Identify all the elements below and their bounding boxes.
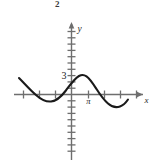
x-axis-label: x	[144, 95, 149, 105]
y-axis-label: y	[76, 24, 82, 34]
x-tick-label-pi: π	[86, 96, 91, 106]
math-figure: 2	[0, 0, 155, 166]
trig-curve	[19, 75, 128, 107]
y-value-label-3: 3	[62, 70, 67, 81]
y-axis-arrowhead	[69, 22, 75, 29]
x-axis-arrowhead	[137, 92, 143, 98]
graph-canvas: x y 3 π	[0, 0, 155, 166]
